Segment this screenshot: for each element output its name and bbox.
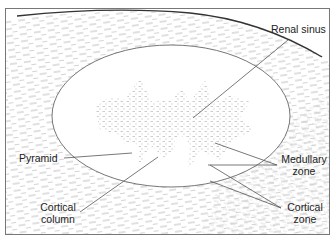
- label-renal-sinus: Renal sinus: [271, 23, 326, 35]
- label-cortical-column-line1: Cortical: [38, 201, 78, 213]
- label-medullary-zone-line1: Medullary: [280, 153, 328, 165]
- label-cortical-column: Cortical column: [38, 201, 78, 225]
- label-pyramid: Pyramid: [19, 152, 58, 164]
- label-cortical-zone-line1: Cortical: [284, 201, 326, 213]
- label-cortical-zone-line2: zone: [284, 213, 326, 225]
- label-medullary-zone: Medullary zone: [280, 153, 328, 177]
- label-medullary-zone-line2: zone: [280, 165, 328, 177]
- label-cortical-zone: Cortical zone: [284, 201, 326, 225]
- label-cortical-column-line2: column: [38, 213, 78, 225]
